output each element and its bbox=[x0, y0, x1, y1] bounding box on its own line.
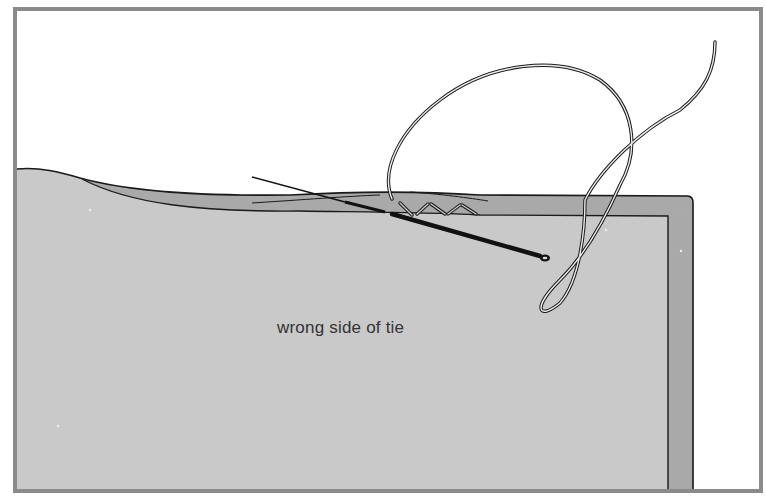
hem-fold-right bbox=[668, 216, 693, 489]
fabric-label: wrong side of tie bbox=[277, 318, 404, 338]
sewing-illustration bbox=[0, 0, 766, 498]
